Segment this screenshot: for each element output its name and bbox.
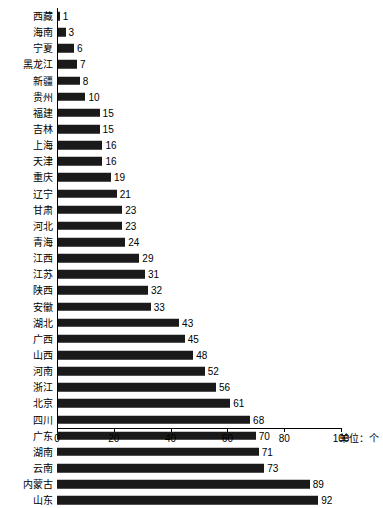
category-label: 山东 — [33, 495, 53, 506]
value-label: 15 — [103, 124, 114, 135]
bar-row: 福建15 — [57, 105, 341, 121]
category-label: 湖南 — [33, 446, 53, 457]
value-label: 52 — [208, 366, 219, 377]
bar-rows: 西藏1海南3宁夏6黑龙江7新疆8贵州10福建15吉林15上海16天津16重庆19… — [57, 8, 341, 428]
bar-row: 吉林15 — [57, 121, 341, 137]
category-label: 河南 — [33, 366, 53, 377]
bar — [57, 383, 216, 392]
value-label: 31 — [148, 269, 159, 280]
x-axis-line — [57, 428, 342, 429]
x-tick — [284, 428, 285, 432]
x-tick-label: 0 — [54, 433, 60, 444]
value-label: 70 — [259, 430, 270, 441]
value-label: 29 — [142, 253, 153, 264]
x-tick-label: 40 — [165, 433, 176, 444]
value-label: 16 — [105, 156, 116, 167]
category-label: 河北 — [33, 220, 53, 231]
value-label: 24 — [128, 237, 139, 248]
bar-row: 上海16 — [57, 137, 341, 153]
category-label: 新疆 — [33, 75, 53, 86]
value-label: 23 — [125, 204, 136, 215]
bar-row: 云南73 — [57, 460, 341, 476]
category-label: 内蒙古 — [23, 479, 53, 490]
value-label: 68 — [253, 414, 264, 425]
bar — [57, 318, 179, 327]
bar — [57, 399, 230, 408]
bar — [57, 335, 185, 344]
value-label: 61 — [233, 398, 244, 409]
value-label: 32 — [151, 285, 162, 296]
bar — [57, 109, 100, 118]
category-label: 西藏 — [33, 11, 53, 22]
category-label: 北京 — [33, 398, 53, 409]
bar-row: 海南3 — [57, 24, 341, 40]
bar-row: 青海24 — [57, 234, 341, 250]
category-label: 上海 — [33, 140, 53, 151]
bar — [57, 173, 111, 182]
x-tick-label: 80 — [279, 433, 290, 444]
category-label: 四川 — [33, 414, 53, 425]
category-label: 江苏 — [33, 269, 53, 280]
value-label: 45 — [188, 333, 199, 344]
value-label: 7 — [80, 59, 86, 70]
x-tick-label: 20 — [108, 433, 119, 444]
x-tick — [341, 428, 342, 432]
bar-row: 河南52 — [57, 363, 341, 379]
bar — [57, 60, 77, 69]
bar — [57, 44, 74, 53]
bar — [57, 448, 259, 457]
category-label: 黑龙江 — [23, 59, 53, 70]
bar-row: 江西29 — [57, 250, 341, 266]
bar — [57, 125, 100, 134]
bar-row: 河北23 — [57, 218, 341, 234]
value-label: 8 — [83, 75, 89, 86]
category-label: 天津 — [33, 156, 53, 167]
category-label: 云南 — [33, 463, 53, 474]
bar-row: 浙江56 — [57, 379, 341, 395]
bar — [57, 238, 125, 247]
bar-row: 新疆8 — [57, 73, 341, 89]
category-label: 青海 — [33, 237, 53, 248]
category-label: 辽宁 — [33, 188, 53, 199]
x-tick-label: 60 — [222, 433, 233, 444]
bar-row: 天津16 — [57, 153, 341, 169]
category-label: 陕西 — [33, 285, 53, 296]
bar-row: 辽宁21 — [57, 186, 341, 202]
bar — [57, 222, 122, 231]
bar-row: 西藏1 — [57, 8, 341, 24]
bar-row: 甘肃23 — [57, 202, 341, 218]
bar — [57, 28, 66, 37]
bar-row: 江苏31 — [57, 266, 341, 282]
category-label: 浙江 — [33, 382, 53, 393]
x-tick — [114, 428, 115, 432]
bar-row: 广西45 — [57, 331, 341, 347]
bar — [57, 157, 102, 166]
bar — [57, 496, 318, 505]
unit-note: 单位：个 — [339, 433, 379, 444]
category-label: 安徽 — [33, 301, 53, 312]
value-label: 48 — [196, 350, 207, 361]
bar-row: 重庆19 — [57, 169, 341, 185]
plot-area: 西藏1海南3宁夏6黑龙江7新疆8贵州10福建15吉林15上海16天津16重庆19… — [57, 8, 341, 428]
bar — [57, 302, 151, 311]
bar — [57, 254, 139, 263]
category-label: 贵州 — [33, 91, 53, 102]
bar-row: 贵州10 — [57, 89, 341, 105]
value-label: 43 — [182, 317, 193, 328]
value-label: 21 — [120, 188, 131, 199]
value-label: 89 — [313, 479, 324, 490]
bar — [57, 206, 122, 215]
value-label: 71 — [262, 446, 273, 457]
bar — [57, 367, 205, 376]
bar-row: 内蒙古89 — [57, 476, 341, 492]
x-tick — [57, 428, 58, 432]
category-label: 广西 — [33, 333, 53, 344]
value-label: 23 — [125, 220, 136, 231]
bar-row: 湖南71 — [57, 444, 341, 460]
bar — [57, 286, 148, 295]
bar-row: 湖北43 — [57, 315, 341, 331]
value-label: 56 — [219, 382, 230, 393]
value-label: 6 — [77, 43, 83, 54]
x-tick — [227, 428, 228, 432]
